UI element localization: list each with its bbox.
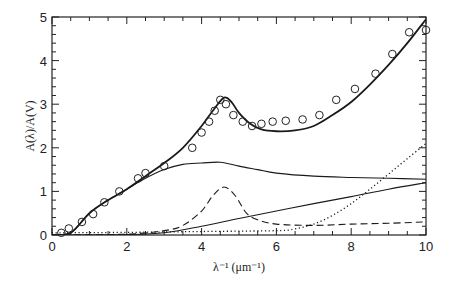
observation-point — [89, 210, 97, 218]
observation-point — [269, 118, 277, 126]
series-line-3 — [52, 187, 426, 235]
observation-point — [188, 144, 196, 152]
series-line-2 — [52, 183, 426, 235]
observation-point — [405, 28, 413, 36]
x-axis-title: λ⁻¹ (μm⁻¹) — [213, 260, 265, 274]
observation-point — [389, 50, 397, 58]
observation-point — [65, 225, 73, 233]
series-line-1 — [52, 162, 426, 235]
x-tick-label: 4 — [198, 239, 205, 254]
y-axis-title: A(λ)/A(V) — [23, 100, 37, 151]
observation-point — [332, 96, 340, 104]
x-tick-label: 2 — [123, 239, 130, 254]
observation-points — [58, 26, 430, 236]
observation-point — [351, 85, 359, 93]
axis-labels: 0246810012345 — [40, 10, 433, 254]
y-tick-label: 3 — [40, 97, 47, 112]
extinction-chart: 0246810012345 λ⁻¹ (μm⁻¹) A(λ)/A(V) — [0, 0, 455, 283]
observation-point — [299, 116, 307, 124]
observation-point — [258, 120, 266, 128]
y-tick-label: 0 — [40, 228, 47, 243]
observation-point — [282, 117, 290, 125]
x-tick-label: 0 — [48, 239, 55, 254]
x-tick-label: 8 — [348, 239, 355, 254]
series-line-4 — [52, 143, 426, 232]
observation-point — [222, 100, 230, 108]
observation-point — [239, 118, 247, 126]
observation-point — [230, 111, 238, 119]
y-tick-label: 1 — [40, 184, 47, 199]
observation-point — [316, 111, 324, 119]
x-tick-label: 6 — [273, 239, 280, 254]
observation-point — [198, 129, 206, 137]
y-tick-label: 4 — [40, 54, 47, 69]
y-tick-label: 2 — [40, 141, 47, 156]
x-tick-label: 10 — [419, 239, 433, 254]
y-tick-label: 5 — [40, 10, 47, 25]
observation-point — [372, 70, 380, 78]
observation-point — [205, 118, 213, 126]
